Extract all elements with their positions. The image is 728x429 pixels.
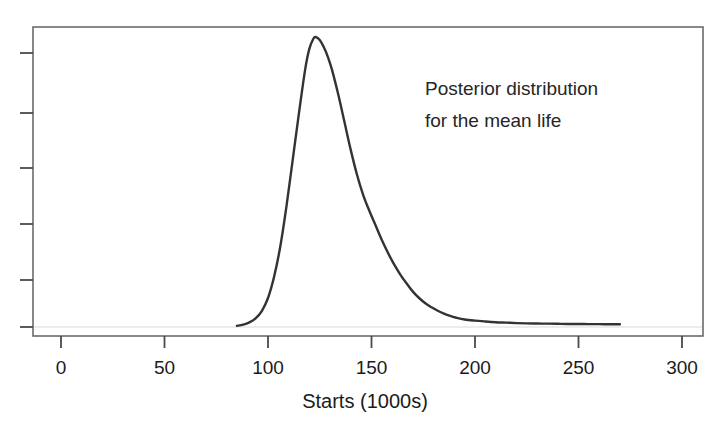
posterior-distribution-chart: 050100150200250300 Starts (1000s) Poster… <box>0 0 728 429</box>
x-axis-tick-label-150: 150 <box>356 357 388 378</box>
x-axis-tick-label-0: 0 <box>56 357 67 378</box>
x-axis-title: Starts (1000s) <box>302 390 428 412</box>
x-axis-tick-label-50: 50 <box>154 357 175 378</box>
x-axis-tick-label-300: 300 <box>666 357 698 378</box>
chart-figure: 050100150200250300 Starts (1000s) Poster… <box>0 0 728 429</box>
x-axis-tick-label-100: 100 <box>252 357 284 378</box>
annotation-line-2: for the mean life <box>425 110 561 131</box>
x-axis-tick-label-200: 200 <box>459 357 491 378</box>
annotation-line-1: Posterior distribution <box>425 78 598 99</box>
x-axis-tick-label-250: 250 <box>563 357 595 378</box>
